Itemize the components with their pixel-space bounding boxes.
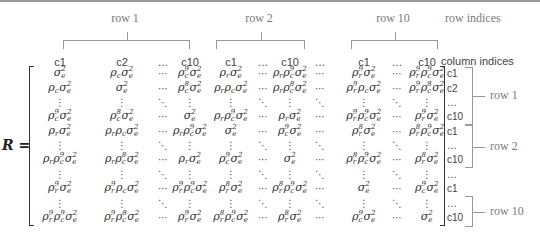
row-index-label: c1 [447,126,458,137]
row-indices-label: row indices [445,11,501,26]
matrix-cell: ρ8rρ9cσ2e [346,152,381,166]
matrix-cell: ⋯ [315,83,325,94]
matrix-cell: ρ8cσ2e [110,109,134,123]
matrix-cell: ρ9rσ2e [415,109,439,123]
row-index-label: … [447,169,457,180]
matrix-cell: ρ9rρ9cσ2e [172,181,207,195]
column-header: … [258,56,269,68]
column-header: … [315,56,326,68]
matrix-cell: ⋮ [185,169,195,180]
matrix-cell: ρ rρ8cσ2e [273,81,307,95]
matrix-cell: ⋮ [55,140,65,151]
matrix-cell: σ2e [225,124,237,138]
row-index-label: c2 [447,83,458,94]
matrix-cell: ⋮ [226,169,236,180]
matrix-cell: ρ9rσ2e [48,181,72,195]
matrix-cell: ρ9rρ cσ2e [105,181,140,195]
matrix-cell: ρ8rσ2e [352,124,376,138]
matrix-cell: ⋮ [422,140,432,151]
matrix-cell: ⋮ [117,198,127,209]
matrix-cell: ρ8rρ9cσ2e [213,210,248,224]
matrix-cell: ⋮ [117,169,127,180]
matrix-cell: ⋯ [258,212,268,223]
matrix-cell: ρ9cσ2e [219,152,243,166]
matrix-cell: ρ9cσ2e [48,109,72,123]
matrix-cell: ⋱ [315,140,325,151]
matrix-cell: ⋯ [158,183,168,194]
matrix-cell: ρ rρ cσ2e [214,81,248,95]
matrix-cell: ⋯ [315,126,325,137]
matrix-cell: ρ9cσ2e [352,210,376,224]
matrix-cell: ρ9rσ2e [352,66,376,80]
matrix-cell: ρ8rσ2e [219,181,243,195]
right-group-bracket [465,67,473,125]
matrix-cell: ρ9rρ8cσ2e [104,210,139,224]
matrix-cell: ⋯ [258,183,268,194]
matrix-label: R = [2,137,30,153]
matrix-cell: ⋮ [359,169,369,180]
matrix-cell: ⋯ [258,68,268,79]
matrix-cell: ⋱ [258,198,268,209]
matrix-cell: ρ9rρ9cσ2e [346,109,381,123]
matrix-cell: ⋯ [258,126,268,137]
matrix-cell: ⋱ [392,97,402,108]
matrix-cell: ⋮ [117,140,127,151]
matrix-cell: ⋱ [158,140,168,151]
matrix-cell: ⋱ [315,198,325,209]
row-index-label: … [447,140,457,151]
matrix-cell: ⋯ [158,126,168,137]
matrix-cell: ⋮ [117,97,127,108]
matrix-cell: ⋯ [315,154,325,165]
matrix-cell: ⋱ [158,198,168,209]
matrix-cell: ⋱ [258,97,268,108]
matrix-cell: σ2e [54,66,66,80]
column-header: … [158,56,169,68]
matrix-cell: ρ9cσ2e [178,66,202,80]
matrix-cell: ⋮ [55,169,65,180]
matrix-cell: ρ cσ2e [48,81,71,95]
matrix-cell: ρ8rσ2e [415,152,439,166]
matrix-cell: ρ cσ2e [110,66,133,80]
matrix-cell: ⋱ [315,169,325,180]
matrix-cell: ρ8rσ2e [278,210,302,224]
right-group-label: row 1 [490,88,518,103]
matrix-cell: ⋮ [185,140,195,151]
column-header: … [392,56,403,68]
matrix-cell: ⋮ [359,97,369,108]
matrix-cell: ⋯ [158,212,168,223]
matrix-cell: ρ rρ9cσ2e [173,124,207,138]
matrix-cell: ⋱ [158,97,168,108]
row-index-label: … [447,97,457,108]
matrix-cell: ρ9rρ9cσ2e [409,66,444,80]
matrix-cell: ⋯ [258,154,268,165]
top-group-bracket [63,40,190,49]
top-group-label: row 2 [245,11,273,26]
matrix-cell: ⋱ [392,169,402,180]
matrix-cell: ρ9rρ9cσ2e [42,210,77,224]
matrix-cell: ⋯ [258,83,268,94]
row-index-label: c10 [447,212,463,223]
matrix-cell: ⋯ [158,68,168,79]
matrix-cell: ⋮ [359,198,369,209]
matrix-cell: σ2e [116,81,128,95]
matrix-cell: ⋮ [359,140,369,151]
matrix-cell: ρ rρ9cσ2e [214,109,248,123]
top-group-label: row 1 [111,11,139,26]
matrix-cell: ⋯ [315,183,325,194]
row-index-label: c1 [447,183,458,194]
matrix-cell: ⋱ [392,198,402,209]
matrix-cell: ⋱ [158,169,168,180]
column-indices-label: column indices [441,55,514,67]
matrix-cell: ⋮ [422,198,432,209]
matrix-cell: ⋮ [285,198,295,209]
matrix-cell: ⋮ [422,169,432,180]
row-index-label: c10 [447,154,463,165]
top-group-label: row 10 [376,11,410,26]
matrix-cell: ρ9rσ2e [178,210,202,224]
matrix-cell: ρ rρ cσ2e [105,124,139,138]
right-group-label: row 2 [490,139,518,154]
matrix-cell: ⋮ [185,97,195,108]
matrix-cell: ρ rσ2e [279,109,302,123]
matrix-cell: ρ9rρ8cσ2e [409,81,444,95]
matrix-cell: ⋮ [226,97,236,108]
